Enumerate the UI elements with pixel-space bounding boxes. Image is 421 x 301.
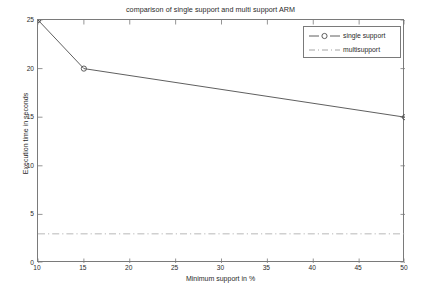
y-tick-label: 5 [30, 210, 34, 217]
x-tick-label: 30 [217, 264, 224, 271]
y-tick-label: 25 [27, 16, 34, 23]
figure-canvas: comparison of single support and multi s… [0, 0, 421, 301]
y-axis-label: Execution time in seconds [22, 54, 29, 214]
x-tick-label: 15 [79, 264, 86, 271]
x-axis-label: Minimum support in % [37, 275, 404, 282]
legend-box: single support multisupport [303, 26, 401, 58]
x-tick-label: 40 [309, 264, 316, 271]
x-tick-label: 50 [400, 264, 407, 271]
legend-label-multisupport: multisupport [343, 46, 380, 53]
legend-item-single-support[interactable]: single support [304, 28, 402, 43]
legend-swatch-multisupport [308, 44, 341, 56]
x-tick-label: 35 [263, 264, 270, 271]
x-tick-label: 20 [125, 264, 132, 271]
x-tick-label: 10 [33, 264, 40, 271]
legend-swatch-single-support [308, 30, 341, 42]
legend-label-single-support: single support [343, 32, 385, 39]
legend-item-multisupport[interactable]: multisupport [304, 42, 402, 57]
x-tick-label: 25 [171, 264, 178, 271]
chart-title: comparison of single support and multi s… [0, 5, 421, 14]
x-tick-label: 45 [354, 264, 361, 271]
